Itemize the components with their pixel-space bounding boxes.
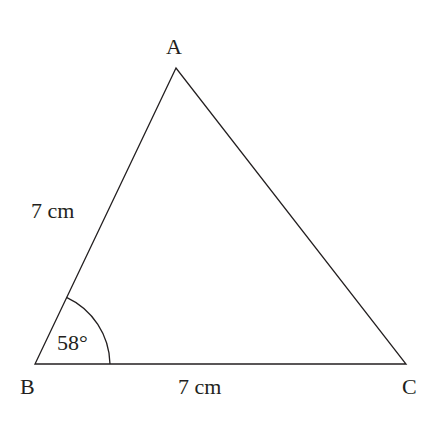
vertex-label-a: A [166, 36, 182, 58]
side-label-bc: 7 cm [178, 376, 221, 398]
side-label-ab: 7 cm [31, 200, 74, 222]
vertex-label-c: C [402, 376, 417, 398]
angle-label-b: 58° [57, 332, 88, 354]
triangle-diagram: A B C 7 cm 7 cm 58° [0, 0, 440, 422]
triangle-abc [35, 68, 406, 364]
vertex-label-b: B [20, 376, 35, 398]
